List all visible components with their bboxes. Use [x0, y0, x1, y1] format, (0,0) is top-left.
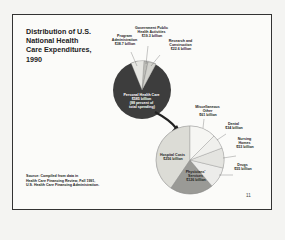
label-nursing-homes: Nursing Homes $53 billion [236, 137, 254, 149]
label-research-construction: Research and Construction $22.6 billion [169, 39, 194, 51]
label-program-admin: Program Administration $38.7 billion [112, 34, 138, 46]
source-line: U.S. Health Care Financing Administratio… [26, 183, 99, 188]
label-dental: Dental $34 billion [225, 122, 243, 130]
label-drugs: Drugs $55 billion [234, 163, 252, 171]
page-number: 11 [246, 193, 251, 198]
label-misc-other: Miscellaneous Other $61 billion [195, 105, 221, 117]
label-physicians-services: Physicians' Services $126 billion [186, 170, 207, 182]
arrow [155, 112, 176, 128]
label-hospital-costs: Hospital Costs $256 billion [160, 153, 186, 161]
label-gov-public-health: Government Public Health Activities $19.… [135, 26, 169, 38]
source-note: Source: Compiled from data in Health Car… [26, 174, 99, 188]
